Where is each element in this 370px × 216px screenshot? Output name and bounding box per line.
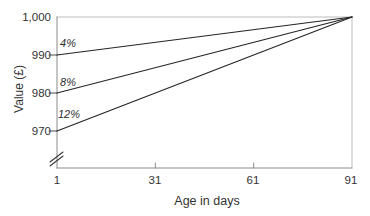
series-label-12pct: 12% [54,108,84,120]
x-tick-label-1: 1 [45,174,69,186]
series-line-12% [57,17,352,131]
interest-rate-value-chart: 1,000 990 980 970 1 31 61 91 4% 8% 12% A… [0,0,370,216]
series-line-8% [57,17,352,93]
x-tick-label-61: 61 [241,174,265,186]
y-axis-title: Value (£) [12,29,26,149]
x-tick-label-91: 91 [339,174,363,186]
series-label-8pct: 8% [53,76,83,88]
y-tick-label-1000: 1,000 [6,11,51,23]
series-line-4% [57,17,352,55]
series-label-4pct: 4% [53,37,83,49]
x-axis-title: Age in days [147,194,267,208]
x-tick-label-31: 31 [143,174,167,186]
